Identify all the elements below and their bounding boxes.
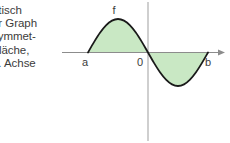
label-origin: 0 xyxy=(137,56,143,68)
figure-canvas: f a 0 b xyxy=(58,0,230,143)
text-line-1: ntisch xyxy=(0,4,62,17)
text-line-5: 1. Achse xyxy=(0,57,62,70)
label-function: f xyxy=(112,4,116,16)
x-axis-arrow-icon xyxy=(218,50,225,56)
label-right-bound: b xyxy=(205,56,211,68)
figure-page: ntisch er Graph symmet- Fläche, 1. Achse… xyxy=(0,0,230,143)
text-line-4: Fläche, xyxy=(0,44,62,57)
label-left-bound: a xyxy=(82,56,89,68)
explanatory-text-block: ntisch er Graph symmet- Fläche, 1. Achse xyxy=(0,4,62,80)
sine-curve-figure: f a 0 b xyxy=(58,0,230,143)
text-line-2: er Graph xyxy=(0,17,62,30)
text-line-3: symmet- xyxy=(0,30,62,43)
